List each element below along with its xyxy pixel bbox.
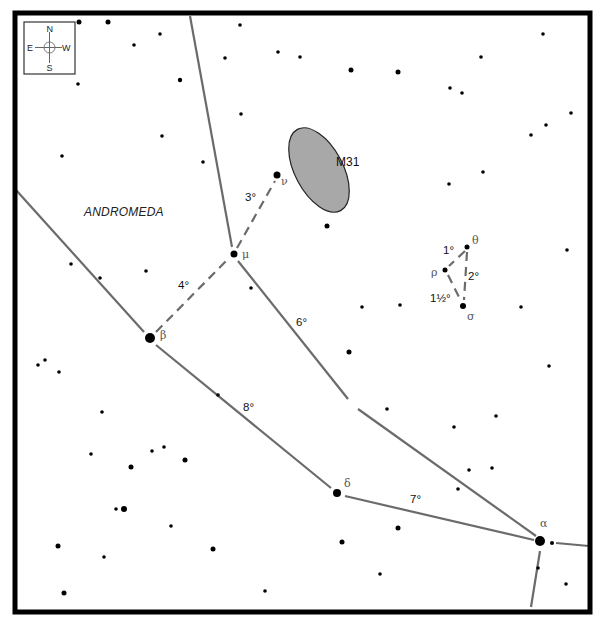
field-star [62,591,67,596]
field-star [398,303,402,307]
field-star [102,555,106,559]
field-star [89,452,93,456]
star-label-beta: β [160,329,166,342]
field-star [201,160,205,164]
field-star [36,363,40,367]
star-label-sigma: σ [467,310,475,323]
field-star [536,566,540,570]
field-star [216,393,220,397]
field-star [121,506,127,512]
field-star [183,458,188,463]
field-star [550,541,554,545]
field-star [385,407,389,411]
field-star [479,55,483,59]
star-label-rho: ρ [431,266,437,279]
field-star [541,32,545,36]
field-star [452,425,456,429]
field-star [249,286,253,290]
field-star [263,589,267,593]
field-star [77,20,82,25]
field-star [144,269,148,273]
field-star [60,154,64,158]
star-sigma [460,303,466,309]
field-star [481,170,485,174]
star-chart: αβδμνθρσ 3°4°6°8°7°1°2°1½° M31 ANDROMEDA… [0,0,602,624]
field-star [564,582,568,586]
field-star [347,350,352,355]
field-star [569,111,573,115]
star-mu [231,251,238,258]
distance-label: 4° [178,279,189,291]
star-label-nu: ν [281,175,288,188]
field-star [519,305,523,309]
star-theta [465,245,470,250]
m31-label: M31 [336,155,360,169]
distance-label: 3° [245,191,256,203]
compass-east: E [27,43,33,53]
field-star [349,68,354,73]
field-star [150,449,154,453]
field-star [490,466,494,470]
star-delta [333,489,341,497]
distance-label: 6° [296,316,307,328]
star-beta [145,333,155,343]
constellation-name: ANDROMEDA [83,205,164,219]
field-star [360,305,364,309]
field-star [396,526,401,531]
field-star [56,544,61,549]
field-star [276,50,280,54]
field-star [169,524,173,528]
field-star [106,20,111,25]
distance-label: 1° [443,244,454,256]
field-star [396,70,401,75]
field-star [178,78,182,82]
compass-south: S [47,63,53,73]
distance-label: 8° [243,401,254,413]
field-star [129,465,134,470]
field-star [223,56,227,60]
star-rho [443,268,448,273]
field-star [239,112,243,116]
field-star [456,487,460,491]
field-star [544,123,548,127]
field-star [325,224,330,229]
field-star [467,468,471,472]
star-label-alpha: α [540,517,548,530]
field-star [238,23,242,27]
star-alpha [535,536,545,546]
field-star [158,32,162,36]
field-star [57,370,61,374]
distance-label: 1½° [430,292,451,304]
field-star [114,507,118,511]
field-star [69,262,73,266]
compass-north: N [47,24,54,34]
field-star [448,86,452,90]
field-star [340,540,345,545]
field-star [447,182,451,186]
star-label-theta: θ [472,234,479,247]
field-star [529,133,533,137]
field-star [43,358,47,362]
background [0,0,602,624]
field-star [98,276,102,280]
star-label-mu: μ [242,248,249,261]
field-star [162,445,166,449]
field-star [132,43,136,47]
field-star [100,410,104,414]
field-star [298,55,302,59]
field-star [211,547,216,552]
field-star [565,248,569,252]
star-label-delta: δ [344,477,351,490]
field-star [494,414,498,418]
compass-rose: N S E W [24,22,75,74]
compass-west: W [62,43,71,53]
distance-label: 2° [468,270,479,282]
field-star [160,134,164,138]
field-star [460,91,464,95]
distance-label: 7° [410,493,421,505]
star-nu [274,172,281,179]
field-star [76,82,80,86]
field-star [547,364,551,368]
field-star [378,572,382,576]
